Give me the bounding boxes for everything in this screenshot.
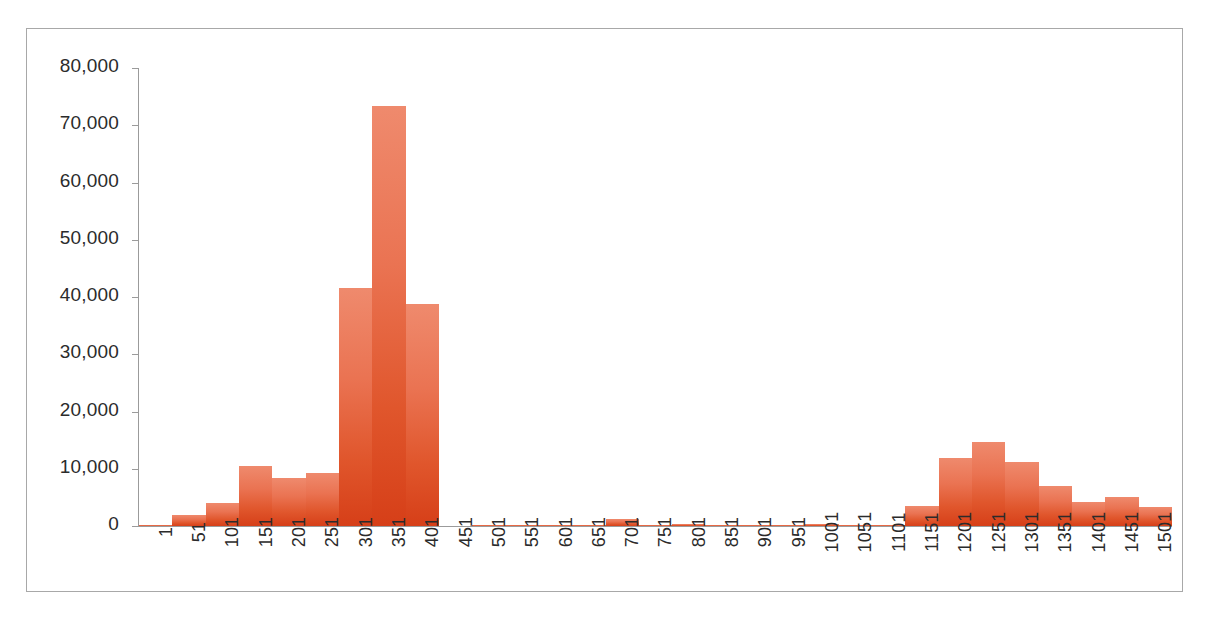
x-axis-tick-slot: 301	[339, 530, 372, 592]
y-axis-tick	[132, 183, 138, 184]
y-axis-tick-label: 70,000	[29, 112, 119, 134]
x-axis-tick-slot: 51	[172, 530, 205, 592]
y-axis-tick-label: 0	[29, 513, 119, 535]
x-axis-tick-slot: 751	[639, 530, 672, 592]
y-axis-tick-label: 80,000	[29, 55, 119, 77]
x-axis-tick-slot: 351	[372, 530, 405, 592]
x-axis-tick-slot: 701	[606, 530, 639, 592]
y-axis-tick-label: 30,000	[29, 341, 119, 363]
bar-series	[139, 68, 1172, 526]
x-axis-tick-slot: 1251	[972, 530, 1005, 592]
bar	[139, 525, 172, 527]
x-axis-labels: 1511011512012513013514014515015516016517…	[139, 530, 1172, 592]
y-axis-tick	[132, 125, 138, 126]
y-axis-tick-label: 40,000	[29, 284, 119, 306]
y-axis-tick	[132, 240, 138, 241]
x-axis-tick-slot: 1151	[905, 530, 938, 592]
x-axis-tick-label: 1501	[1155, 512, 1176, 553]
y-axis-tick-label: 10,000	[29, 456, 119, 478]
x-axis-tick-slot: 801	[672, 530, 705, 592]
x-axis-tick-slot: 1451	[1105, 530, 1138, 592]
x-axis-tick-slot: 101	[206, 530, 239, 592]
x-axis-tick-slot: 201	[272, 530, 305, 592]
x-axis-tick-slot: 451	[439, 530, 472, 592]
x-axis-tick-slot: 1201	[939, 530, 972, 592]
x-axis-tick-slot: 901	[739, 530, 772, 592]
x-axis-tick-slot: 651	[572, 530, 605, 592]
x-axis-tick-slot: 501	[472, 530, 505, 592]
y-axis-tick	[132, 412, 138, 413]
x-axis-tick-slot: 1351	[1039, 530, 1072, 592]
x-axis-tick-slot: 1051	[839, 530, 872, 592]
y-axis-tick-label: 50,000	[29, 227, 119, 249]
y-axis-tick	[132, 68, 138, 69]
x-axis-tick-slot: 851	[705, 530, 738, 592]
plot-area: 80,00070,00060,00050,00040,00030,00020,0…	[27, 29, 1182, 591]
x-axis-tick-slot: 401	[406, 530, 439, 592]
y-axis-tick	[132, 469, 138, 470]
y-axis-tick	[132, 526, 138, 527]
y-axis-tick	[132, 297, 138, 298]
x-axis-tick-slot: 1001	[805, 530, 838, 592]
x-axis-tick-slot: 1501	[1139, 530, 1172, 592]
y-axis-tick-label: 60,000	[29, 170, 119, 192]
chart-frame: 80,00070,00060,00050,00040,00030,00020,0…	[26, 28, 1183, 592]
y-axis-tick-label: 20,000	[29, 399, 119, 421]
x-axis-tick-slot: 601	[539, 530, 572, 592]
bar	[339, 288, 372, 526]
x-axis-tick-slot: 1301	[1005, 530, 1038, 592]
x-axis-tick-slot: 251	[306, 530, 339, 592]
x-axis-tick-slot: 1401	[1072, 530, 1105, 592]
y-axis-tick	[132, 354, 138, 355]
x-axis-tick-slot: 151	[239, 530, 272, 592]
bar	[372, 106, 405, 526]
x-axis-tick-slot: 551	[506, 530, 539, 592]
bar	[406, 304, 439, 526]
x-axis-tick-slot: 951	[772, 530, 805, 592]
x-axis-tick-slot: 1	[139, 530, 172, 592]
x-axis-tick-slot: 1101	[872, 530, 905, 592]
